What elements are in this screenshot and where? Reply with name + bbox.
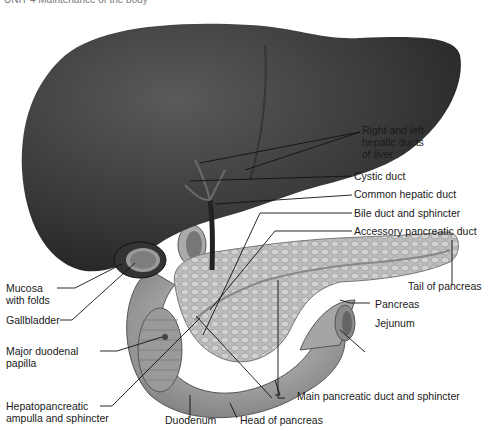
- bile-duct: [210, 200, 212, 270]
- label-main-pancreatic-duct: Main pancreatic duct and sphincter: [297, 390, 460, 402]
- label-jejunum: Jejunum: [375, 317, 415, 329]
- label-right-left-hepatic-ducts: Right and left hepatic ducts of liver: [362, 124, 424, 160]
- label-cystic-duct: Cystic duct: [354, 170, 405, 182]
- label-line: ampulla and sphincter: [6, 412, 109, 424]
- label-line: papilla: [6, 357, 78, 369]
- label-line: with folds: [6, 294, 50, 306]
- label-head-of-pancreas: Head of pancreas: [240, 414, 323, 426]
- label-mucosa-with-folds: Mucosa with folds: [6, 282, 50, 306]
- major-duodenal-papilla: [162, 334, 168, 340]
- label-common-hepatic-duct: Common hepatic duct: [354, 188, 456, 200]
- label-line: Right and left: [362, 124, 424, 136]
- label-line: Major duodenal: [6, 345, 78, 357]
- label-accessory-pancreatic-duct: Accessory pancreatic duct: [354, 225, 477, 237]
- label-major-duodenal-papilla: Major duodenal papilla: [6, 345, 78, 369]
- label-gallbladder: Gallbladder: [6, 314, 60, 326]
- label-line: of liver: [362, 148, 424, 160]
- label-line: Mucosa: [6, 282, 50, 294]
- label-pancreas: Pancreas: [375, 298, 419, 310]
- label-line: hepatic ducts: [362, 136, 424, 148]
- label-hepatopancreatic-ampulla: Hepatopancreatic ampulla and sphincter: [6, 400, 109, 424]
- anatomy-diagram: UNIT 4 Maintenance of the body: [0, 0, 489, 431]
- label-line: Hepatopancreatic: [6, 400, 109, 412]
- label-duodenum: Duodenum: [165, 414, 216, 426]
- label-bile-duct-sphincter: Bile duct and sphincter: [354, 207, 460, 219]
- label-tail-of-pancreas: Tail of pancreas: [408, 280, 482, 292]
- gallbladder-shape: [114, 242, 166, 278]
